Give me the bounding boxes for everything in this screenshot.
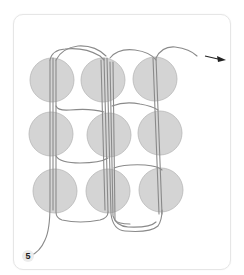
- bead-r1-c1: [30, 58, 74, 102]
- bead-weaving-diagram: [0, 0, 244, 275]
- bead-r1-c3: [133, 57, 177, 101]
- bead-r3-c1: [33, 169, 77, 213]
- bead-r2-c1: [29, 112, 73, 156]
- step-number-badge: 5: [22, 250, 34, 262]
- bead-r1-c2: [81, 58, 125, 102]
- exit-arrow: [205, 56, 226, 62]
